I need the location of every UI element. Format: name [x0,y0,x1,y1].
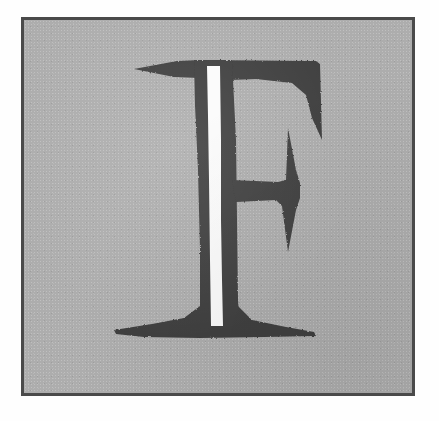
letter-f-glyph [24,20,412,393]
image-canvas [0,0,439,421]
bordered-field [21,17,415,396]
middle-arm [232,128,300,252]
top-serif-left-wedge [134,60,200,78]
